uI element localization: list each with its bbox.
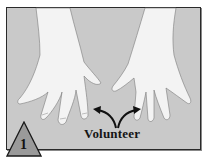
left-hand [18, 8, 101, 124]
arrow-head-left [93, 106, 101, 114]
right-hand [112, 8, 191, 122]
step-number: 1 [20, 137, 27, 153]
volunteer-label: Volunteer [84, 126, 140, 142]
